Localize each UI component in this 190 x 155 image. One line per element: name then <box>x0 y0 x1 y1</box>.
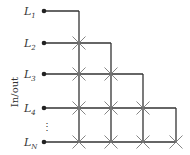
dot-2 <box>42 41 47 46</box>
line-labels: L1L2L3L4LN <box>23 5 38 151</box>
line-label-3: L3 <box>23 68 36 83</box>
line-label-4: L4 <box>23 102 36 117</box>
crossbar-diagram: In/out L1L2L3L4LN ⋮ <box>0 0 190 155</box>
dot-4 <box>42 106 47 111</box>
line-label-N: LN <box>23 136 38 151</box>
ellipsis: ⋮ <box>42 121 52 132</box>
dot-1 <box>42 9 47 14</box>
crosspoints <box>73 37 183 149</box>
line-label-1: L1 <box>23 5 36 20</box>
wires <box>44 11 176 142</box>
dot-N <box>42 140 47 145</box>
axis-label: In/out <box>9 77 20 107</box>
dot-3 <box>42 72 47 77</box>
line-label-2: L2 <box>23 37 36 52</box>
